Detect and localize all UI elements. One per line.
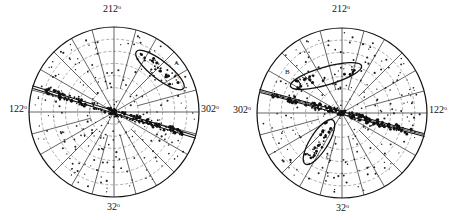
annotation-c: C: [326, 152, 331, 162]
annotation-a: A: [174, 58, 179, 68]
label-top: 212o: [332, 4, 350, 14]
annotation-b: B: [285, 67, 290, 77]
label-right: 302o: [201, 104, 219, 114]
right-stereonet: 212o 302o 122o 32o B C: [229, 0, 458, 220]
label-top: 212o: [103, 4, 121, 14]
label-bottom: 32o: [336, 203, 349, 213]
right-stereonet-graphic: [229, 0, 458, 220]
label-right: 122o: [429, 105, 447, 115]
label-bottom: 32o: [107, 202, 120, 212]
left-stereonet: 212o 122o 302o 32o A: [0, 0, 229, 220]
label-left: 302o: [233, 105, 251, 115]
left-stereonet-graphic: [0, 0, 229, 220]
label-left: 122o: [9, 104, 27, 114]
